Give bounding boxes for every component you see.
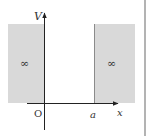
x-axis-label: x <box>117 107 123 118</box>
potential-well-diagram: V ∞ ∞ O a x <box>0 0 146 136</box>
right-infinity-label: ∞ <box>107 57 116 70</box>
left-infinity-label: ∞ <box>20 57 29 70</box>
y-axis-label: V <box>34 10 43 23</box>
well-edge-label: a <box>90 109 96 120</box>
origin-label: O <box>34 108 42 119</box>
